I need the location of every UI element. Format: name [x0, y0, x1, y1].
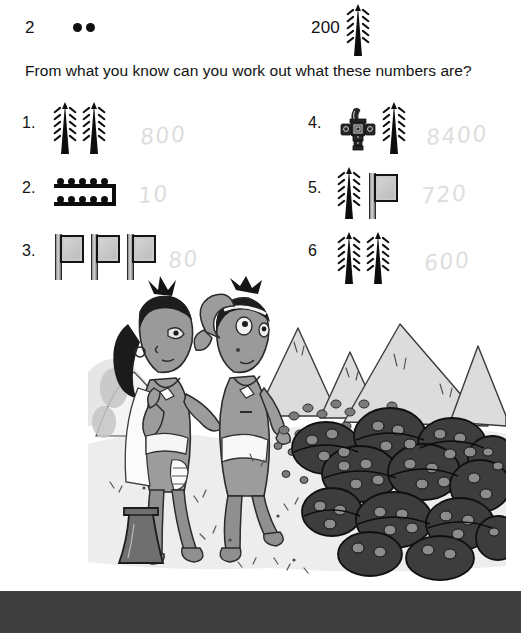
flag-banner [60, 235, 84, 263]
handwritten-answer: 800 [139, 121, 187, 149]
dot-icon [101, 196, 108, 203]
dot-icon [90, 196, 97, 203]
dot-icon [101, 178, 108, 185]
exercise-glyph-group [54, 104, 105, 154]
handwritten-answer: 600 [423, 247, 471, 275]
exercise-item-2: 2. 10 [22, 163, 262, 223]
dot-icon [79, 178, 86, 185]
handwritten-answer: 720 [420, 180, 468, 208]
handwritten-answer: 8400 [425, 121, 488, 150]
exercise-number: 3. [22, 242, 35, 260]
dot-icon [90, 178, 97, 185]
question-prompt: From what you know can you work out what… [25, 62, 495, 80]
feather-glyph-key [347, 6, 369, 56]
cacao-scene-illustration [88, 276, 506, 582]
page-footer-bar [0, 591, 521, 633]
key-two-hundred-label: 200 [311, 18, 340, 38]
handwritten-answer: 80 [167, 246, 199, 273]
flag-banner [132, 235, 156, 263]
bar-side [112, 184, 116, 206]
feather-icon [83, 104, 105, 154]
exercise-item-4: 4. [308, 98, 521, 158]
feather-icon [347, 6, 369, 56]
feather-icon [338, 169, 360, 219]
feather-barb-icon [361, 36, 370, 43]
bar-of-ten-icon [54, 175, 116, 209]
exercise-glyph-group [338, 104, 405, 154]
exercise-number: 2. [22, 179, 35, 197]
flag-icon [126, 234, 158, 280]
handwritten-answer: 10 [137, 181, 169, 208]
feather-tip [355, 4, 361, 11]
exercise-glyph-group [54, 234, 158, 280]
flag-icon [54, 234, 86, 280]
exercise-number: 4. [308, 114, 321, 132]
flag-icon [368, 173, 400, 219]
exercise-item-5: 5. 720 [308, 163, 521, 223]
exercise-item-1: 1. 800 [22, 98, 262, 158]
worksheet-page: 2 200 From what you know can [0, 0, 521, 633]
dot-icon [57, 178, 64, 185]
dot-icon [68, 196, 75, 203]
feather-icon [383, 104, 405, 154]
dot-icon [57, 196, 64, 203]
illustration-svg [88, 276, 506, 582]
flag-banner [374, 174, 398, 202]
number-key-row: 2 200 [0, 0, 521, 58]
dot-icon [68, 178, 75, 185]
exercise-number: 1. [22, 114, 35, 132]
exercise-number: 5. [308, 179, 321, 197]
exercise-glyph-group [54, 175, 116, 209]
exercise-number: 6 [308, 242, 317, 260]
flag-icon [90, 234, 122, 280]
pouch-8000-icon [338, 106, 378, 154]
dot-pair-glyph [73, 23, 103, 35]
flag-banner [96, 235, 120, 263]
dot-icon [73, 23, 82, 32]
feather-icon [54, 104, 76, 154]
key-two-label: 2 [25, 18, 35, 38]
dot-icon [79, 196, 86, 203]
exercise-glyph-group [338, 169, 400, 219]
dot-icon [86, 23, 95, 32]
